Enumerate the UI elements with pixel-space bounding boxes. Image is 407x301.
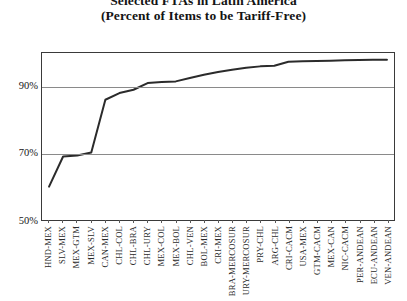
x-tick-mark bbox=[260, 220, 261, 223]
x-tick-mark bbox=[176, 220, 177, 223]
x-tick-mark bbox=[119, 220, 120, 223]
x-tick-mark bbox=[374, 220, 375, 223]
x-tick-label: MEX-BOL bbox=[171, 226, 180, 267]
x-tick-label: MEX-CAN bbox=[327, 226, 336, 268]
x-tick-mark bbox=[218, 220, 219, 223]
x-tick-mark bbox=[62, 220, 63, 223]
x-tick-label: USA-MEX bbox=[298, 226, 307, 267]
x-tick-label: VEN-ANDEAN bbox=[383, 226, 392, 285]
x-tick-label: ECU-ANDEAN bbox=[369, 226, 378, 284]
x-tick-label: HND-MEX bbox=[44, 226, 53, 268]
x-tick-mark bbox=[331, 220, 332, 223]
x-tick-label: CRI-MEX bbox=[214, 226, 223, 264]
x-tick-label: MEX-SLV bbox=[86, 226, 95, 265]
x-tick-mark bbox=[275, 220, 276, 223]
x-tick-mark bbox=[190, 220, 191, 223]
x-tick-label: BRA-MERCOSUR bbox=[228, 226, 237, 296]
page-title: Selected FTAs in Latin America bbox=[0, 0, 407, 8]
x-tick-mark bbox=[48, 220, 49, 223]
x-tick-mark bbox=[91, 220, 92, 223]
chart-title-block: Selected FTAs in Latin America (Percent … bbox=[0, 0, 407, 23]
x-tick-label: CHL-COL bbox=[114, 226, 123, 265]
x-tick-mark bbox=[303, 220, 304, 223]
x-tick-mark bbox=[76, 220, 77, 223]
x-tick-label: PRY-CHL bbox=[256, 226, 265, 263]
x-tick-mark bbox=[360, 220, 361, 223]
x-tick-label: CHL-URY bbox=[143, 226, 152, 265]
x-tick-label: CAN-MEX bbox=[100, 226, 109, 268]
x-tick-label: ARG-CHL bbox=[270, 226, 279, 266]
x-axis-labels: HND-MEXSLV-MEXMEX-GTMMEX-SLVCAN-MEXCHL-C… bbox=[41, 223, 395, 301]
x-tick-label: BOL-MEX bbox=[199, 226, 208, 267]
x-tick-label: URY-MERCOSUR bbox=[242, 226, 251, 295]
x-tick-mark bbox=[133, 220, 134, 223]
x-tick-label: GTM-CACM bbox=[313, 226, 322, 275]
y-tick-label: 50% bbox=[2, 216, 38, 226]
x-tick-mark bbox=[246, 220, 247, 223]
x-tick-label: MEX-GTM bbox=[72, 226, 81, 268]
y-tick-label: 70% bbox=[2, 148, 38, 158]
x-tick-label: MEX-COL bbox=[157, 226, 166, 267]
x-tick-mark bbox=[317, 220, 318, 223]
x-tick-label: CHL-BRA bbox=[129, 226, 138, 265]
x-tick-label: NIC-CACM bbox=[341, 226, 350, 271]
x-tick-mark bbox=[204, 220, 205, 223]
x-tick-mark bbox=[232, 220, 233, 223]
x-tick-mark bbox=[147, 220, 148, 223]
x-tick-mark bbox=[345, 220, 346, 223]
line-series bbox=[42, 53, 394, 220]
y-tick-label: 90% bbox=[2, 81, 38, 91]
gridline-70 bbox=[42, 154, 394, 155]
gridline-90 bbox=[42, 87, 394, 88]
x-tick-mark bbox=[105, 220, 106, 223]
x-tick-label: SLV-MEX bbox=[58, 226, 67, 264]
x-tick-mark bbox=[289, 220, 290, 223]
plot-area bbox=[41, 52, 395, 221]
x-tick-label: CHL-VEN bbox=[185, 226, 194, 265]
x-tick-mark bbox=[161, 220, 162, 223]
x-tick-label: CRI-CACM bbox=[284, 226, 293, 270]
x-tick-label: PER-ANDEAN bbox=[355, 226, 364, 283]
chart-subtitle: (Percent of Items to be Tariff-Free) bbox=[0, 8, 407, 23]
x-tick-mark bbox=[388, 220, 389, 223]
series-polyline bbox=[49, 60, 387, 187]
